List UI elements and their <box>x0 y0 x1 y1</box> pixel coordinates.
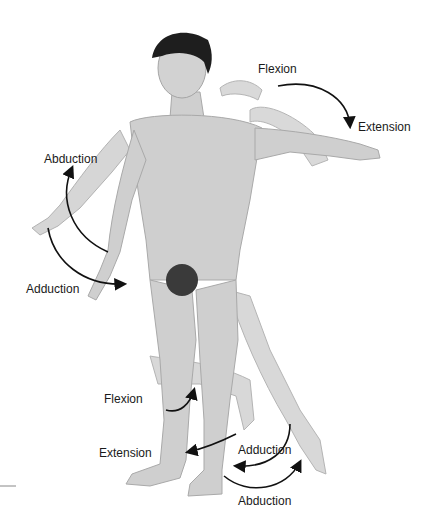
pubic-region <box>166 264 198 296</box>
leg-abduction-label: Abduction <box>238 494 291 508</box>
leg-adduction-label: Adduction <box>238 443 291 457</box>
head <box>152 33 212 98</box>
arm-abduction-label: Abduction <box>44 152 97 166</box>
arm-adduction-label: Adduction <box>26 282 79 296</box>
arm-flexion-label: Flexion <box>258 62 297 76</box>
arm-extension-label: Extension <box>358 120 411 134</box>
body-illustration <box>0 0 429 532</box>
leg-flexion-label: Flexion <box>104 392 143 406</box>
leg-abduction-arrow <box>224 462 300 488</box>
anatomy-figure: Flexion Extension Abduction Adduction Fl… <box>0 0 429 532</box>
leg-extension-label: Extension <box>99 446 152 460</box>
